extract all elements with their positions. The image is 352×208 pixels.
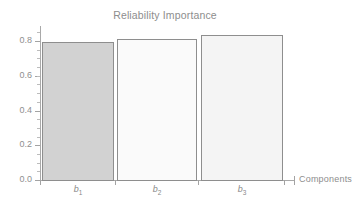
bar-label: b3: [201, 184, 283, 196]
bar-label: b2: [117, 184, 197, 196]
x-axis-title: Components: [299, 174, 352, 184]
bar: [117, 39, 197, 181]
bar: [42, 42, 114, 181]
bar: [201, 35, 283, 181]
bar-label: b1: [42, 184, 114, 196]
bars-layer: [0, 0, 351, 181]
